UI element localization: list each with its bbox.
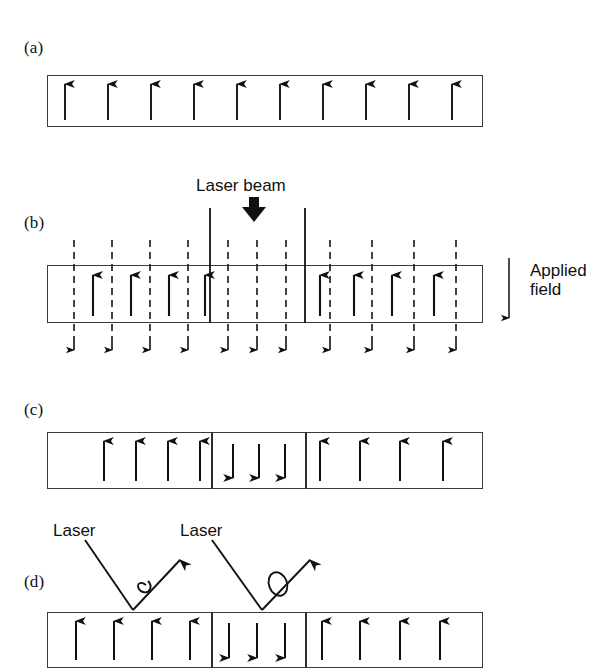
- laser-ray-group-left: [85, 540, 180, 610]
- domain-divider-d-left: [211, 612, 213, 668]
- slab-panel-d: [47, 612, 483, 668]
- panel-label-a: (a): [24, 38, 43, 58]
- applied-field-label-line2: field: [530, 280, 561, 299]
- magneto-optical-recording-figure: (a) (b) (c) (d) Laser beam Applied field…: [0, 0, 612, 671]
- panel-label-d: (d): [24, 572, 44, 592]
- domain-divider-c-right: [305, 432, 307, 489]
- domain-divider-d-right: [305, 612, 307, 668]
- laser-ray-group-right: [212, 540, 310, 610]
- domain-divider-c-left: [211, 432, 213, 489]
- slab-panel-c: [47, 432, 483, 489]
- applied-field-label-line1: Applied: [530, 261, 587, 280]
- slab-panel-a: [47, 75, 483, 127]
- slab-panel-b: [47, 265, 483, 323]
- laser-beam-label: Laser beam: [196, 176, 286, 195]
- panel-label-c: (c): [24, 400, 43, 420]
- laser-beam-down-arrow: [242, 197, 266, 222]
- laser-label-left: Laser: [53, 521, 96, 540]
- panel-label-b: (b): [24, 213, 44, 233]
- laser-label-right: Laser: [180, 521, 223, 540]
